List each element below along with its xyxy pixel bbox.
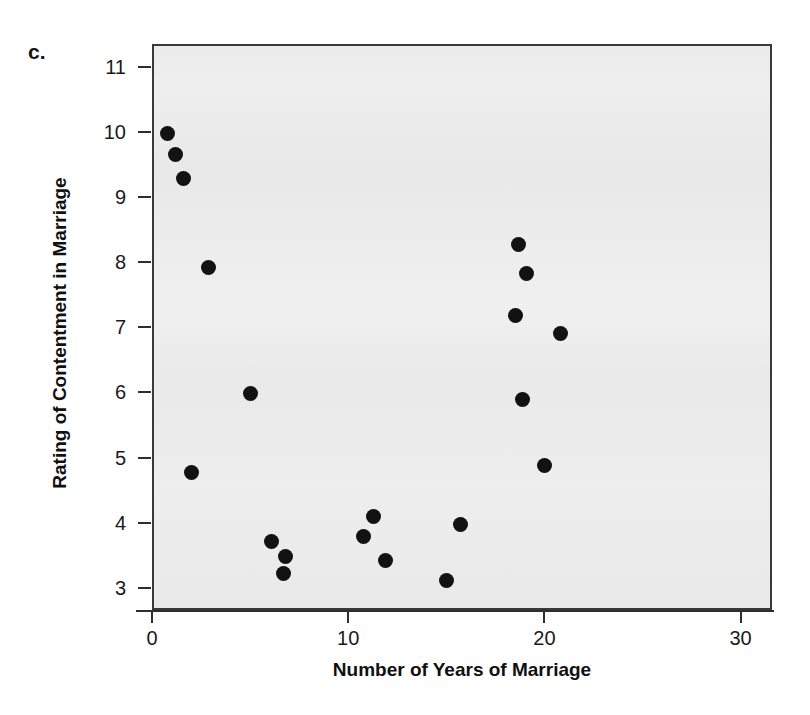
- x-tick-label: 30: [719, 628, 763, 648]
- data-point: [278, 549, 293, 564]
- data-point: [515, 392, 530, 407]
- y-tick-label: 10: [86, 122, 126, 142]
- y-tick-label: 11: [86, 57, 126, 77]
- y-tick-label: 6: [86, 382, 126, 402]
- data-point: [276, 566, 291, 581]
- panel-letter: c.: [28, 40, 46, 64]
- data-point: [366, 509, 381, 524]
- y-tick-mark: [138, 457, 151, 459]
- data-point: [176, 171, 191, 186]
- y-tick-label: 5: [86, 448, 126, 468]
- data-point: [168, 147, 183, 162]
- data-point: [356, 529, 371, 544]
- y-tick-mark: [138, 587, 151, 589]
- data-point: [519, 266, 534, 281]
- data-point: [508, 308, 523, 323]
- x-tick-label: 20: [522, 628, 566, 648]
- x-tick-label: 10: [326, 628, 370, 648]
- y-tick-mark: [138, 326, 151, 328]
- data-point: [160, 126, 175, 141]
- y-tick-mark: [138, 522, 151, 524]
- y-tick-label: 3: [86, 578, 126, 598]
- y-axis-title: Rating of Contentment in Marriage: [49, 123, 71, 543]
- y-tick-label: 8: [86, 252, 126, 272]
- x-axis-title: Number of Years of Marriage: [152, 659, 772, 681]
- y-tick-mark: [138, 131, 151, 133]
- data-point: [511, 237, 526, 252]
- data-point: [184, 465, 199, 480]
- x-axis-line: [136, 610, 774, 612]
- y-tick-label: 7: [86, 317, 126, 337]
- data-point: [201, 260, 216, 275]
- data-point: [378, 553, 393, 568]
- scatter-plot-figure: c. 34567891011 0102030 Number of Years o…: [0, 0, 810, 715]
- y-tick-mark: [138, 391, 151, 393]
- data-point: [439, 573, 454, 588]
- data-point: [243, 386, 258, 401]
- data-point: [537, 458, 552, 473]
- x-tick-label: 0: [130, 628, 174, 648]
- data-point: [453, 517, 468, 532]
- data-point: [264, 534, 279, 549]
- y-tick-label: 4: [86, 513, 126, 533]
- data-point: [553, 326, 568, 341]
- y-tick-mark: [138, 261, 151, 263]
- y-tick-mark: [138, 196, 151, 198]
- y-tick-label: 9: [86, 187, 126, 207]
- y-tick-mark: [138, 66, 151, 68]
- plot-area: [152, 44, 772, 610]
